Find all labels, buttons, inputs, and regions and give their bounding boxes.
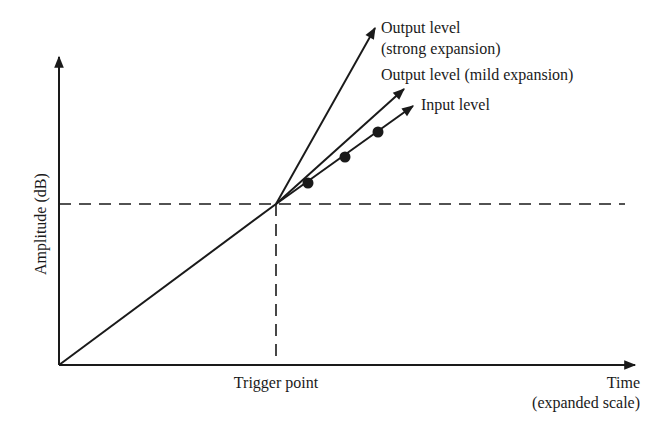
trigger-point-label: Trigger point (234, 374, 319, 392)
mild-expansion-label: Output level (mild expansion) (381, 66, 573, 84)
strong-expansion-line (276, 28, 375, 204)
input-marker-dot (303, 178, 314, 189)
input-marker-dot (340, 152, 351, 163)
x-axis-label-1: Time (607, 374, 640, 391)
mild-expansion-line (276, 89, 404, 204)
strong-expansion-label-2: (strong expansion) (381, 40, 501, 58)
x-axis-label-2: (expanded scale) (532, 394, 640, 412)
input-marker-dot (373, 127, 384, 138)
expander-diagram: Output level (strong expansion) Output l… (0, 0, 670, 431)
strong-expansion-label-1: Output level (381, 19, 461, 37)
y-axis-label: Amplitude (dB) (32, 173, 50, 275)
input-level-label: Input level (421, 96, 490, 114)
linear-segment (59, 204, 276, 365)
